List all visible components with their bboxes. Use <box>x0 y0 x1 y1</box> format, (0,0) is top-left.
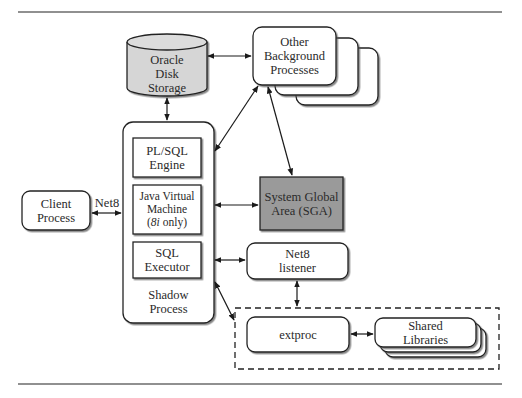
other-background-processes-label: Other Background Processes <box>253 27 336 85</box>
label-line: System Global <box>265 190 339 204</box>
net8-edge-label: Net8 <box>92 196 122 210</box>
label-line: listener <box>279 261 316 275</box>
label-line: Libraries <box>403 333 448 347</box>
label-line: Process <box>37 211 75 225</box>
label-line: Processes <box>270 63 319 77</box>
label-line: extproc <box>279 328 316 342</box>
label-part-italic: 8i <box>151 216 160 228</box>
label-line: Client <box>41 197 72 211</box>
label-line: Engine <box>149 158 184 172</box>
edge-shadow-to-other-bg <box>215 86 258 151</box>
jvm-label: Java Virtual Machine (8i only) <box>133 185 201 234</box>
label-line: PL/SQL <box>146 144 188 158</box>
extproc-label: extproc <box>247 317 349 352</box>
label-line: Machine <box>147 203 187 216</box>
label-line: Shared <box>408 319 443 333</box>
label-line: Background <box>264 49 325 63</box>
label-line: Process <box>149 302 187 316</box>
label-part: only) <box>160 216 187 228</box>
edge-other-bg-to-sga <box>268 87 292 175</box>
label-line: (8i only) <box>147 216 187 229</box>
label-line: Disk <box>155 67 179 81</box>
label-line: Other <box>280 35 308 49</box>
edge-shadow-to-group <box>215 282 234 320</box>
label-line: Area (SGA) <box>271 204 332 218</box>
oracle-disk-storage-label: Oracle Disk Storage <box>127 50 207 98</box>
label-line: Oracle <box>150 53 183 67</box>
label-line: Net8 <box>285 247 309 261</box>
plsql-engine-label: PL/SQL Engine <box>133 138 201 177</box>
label-line: SQL <box>155 246 179 260</box>
net8-listener-label: Net8 listener <box>247 243 348 279</box>
label-line: Net8 <box>95 196 119 210</box>
client-process-label: Client Process <box>22 191 90 230</box>
sql-executor-label: SQL Executor <box>133 242 201 278</box>
shadow-process-label: Shadow Process <box>123 286 214 318</box>
label-line: Java Virtual <box>140 190 195 203</box>
shared-libraries-label: Shared Libraries <box>375 318 476 347</box>
label-line: Executor <box>144 260 189 274</box>
sga-label: System Global Area (SGA) <box>260 177 343 230</box>
label-line: Storage <box>148 81 186 95</box>
label-line: Shadow <box>148 288 188 302</box>
